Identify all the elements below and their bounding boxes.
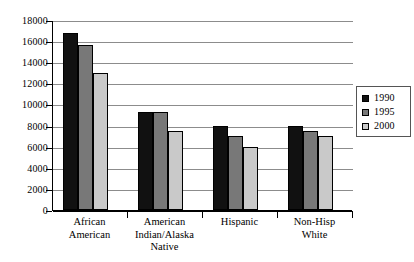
bar-group xyxy=(288,21,333,210)
bar[interactable] xyxy=(228,136,243,210)
y-axis-label: 0 xyxy=(43,206,48,216)
bar[interactable] xyxy=(243,147,258,210)
legend-item[interactable]: 1990 xyxy=(362,91,410,105)
y-axis-label: 18000 xyxy=(22,16,48,26)
bar[interactable] xyxy=(78,45,93,210)
bar[interactable] xyxy=(168,131,183,210)
bar[interactable] xyxy=(63,33,78,210)
y-axis-label: 14000 xyxy=(22,58,48,68)
bar-group xyxy=(63,21,108,210)
y-axis-label: 12000 xyxy=(22,79,48,89)
bar[interactable] xyxy=(303,131,318,210)
legend-swatch-icon xyxy=(362,95,369,102)
bar-chart: 1800016000140001200010000800060004000200… xyxy=(0,0,414,262)
x-axis-category-label: Non-Hisp White xyxy=(269,216,361,241)
legend-label: 1990 xyxy=(374,93,395,103)
legend-swatch-icon xyxy=(362,109,369,116)
y-axis-label: 8000 xyxy=(27,122,48,132)
y-axis-label: 6000 xyxy=(27,143,48,153)
bar-group xyxy=(213,21,258,210)
legend-label: 2000 xyxy=(374,121,395,131)
plot-area xyxy=(52,21,352,211)
bar[interactable] xyxy=(288,126,303,210)
y-axis-label: 4000 xyxy=(27,164,48,174)
legend: 1990 1995 2000 xyxy=(356,86,411,137)
bar[interactable] xyxy=(138,112,153,210)
bar[interactable] xyxy=(318,136,333,210)
bar-group xyxy=(138,21,183,210)
bar[interactable] xyxy=(93,73,108,210)
bar[interactable] xyxy=(153,112,168,210)
legend-swatch-icon xyxy=(362,123,369,130)
gridline xyxy=(53,211,353,212)
legend-label: 1995 xyxy=(374,107,395,117)
legend-item[interactable]: 1995 xyxy=(362,105,410,119)
y-axis-label: 2000 xyxy=(27,185,48,195)
y-axis-label: 10000 xyxy=(22,100,48,110)
bar[interactable] xyxy=(213,126,228,210)
plot-inner xyxy=(53,21,352,210)
legend-item[interactable]: 2000 xyxy=(362,119,410,133)
y-axis-label: 16000 xyxy=(22,37,48,47)
